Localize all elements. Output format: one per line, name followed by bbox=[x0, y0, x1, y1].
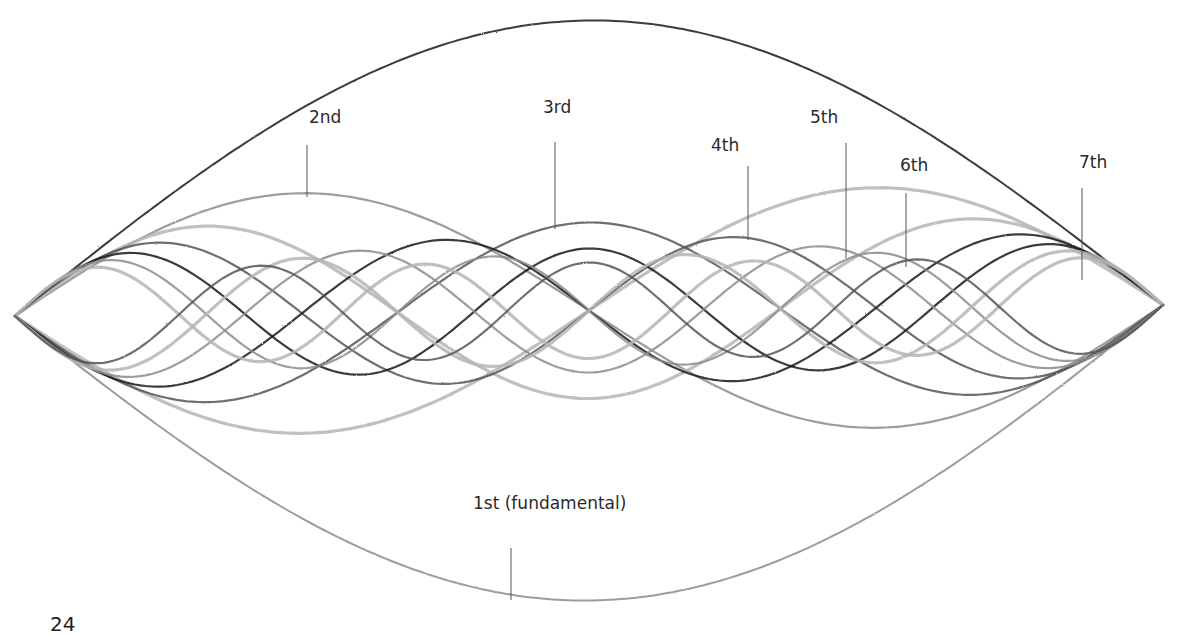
harmonic-6-lower-curve bbox=[15, 251, 1163, 370]
harmonic-3-label: 3rd bbox=[543, 97, 571, 117]
harmonic-5-label: 5th bbox=[810, 107, 838, 127]
page-number: 24 bbox=[50, 612, 75, 635]
standing-wave-curves bbox=[15, 21, 1163, 601]
harmonic-6-label: 6th bbox=[900, 155, 928, 175]
harmonic-2-label: 2nd bbox=[309, 107, 341, 127]
harmonic-7-label: 7th bbox=[1079, 152, 1107, 172]
label-leader-lines bbox=[307, 142, 1082, 600]
harmonic-4-label: 4th bbox=[711, 135, 739, 155]
harmonic-1-label: 1st (fundamental) bbox=[473, 493, 626, 513]
